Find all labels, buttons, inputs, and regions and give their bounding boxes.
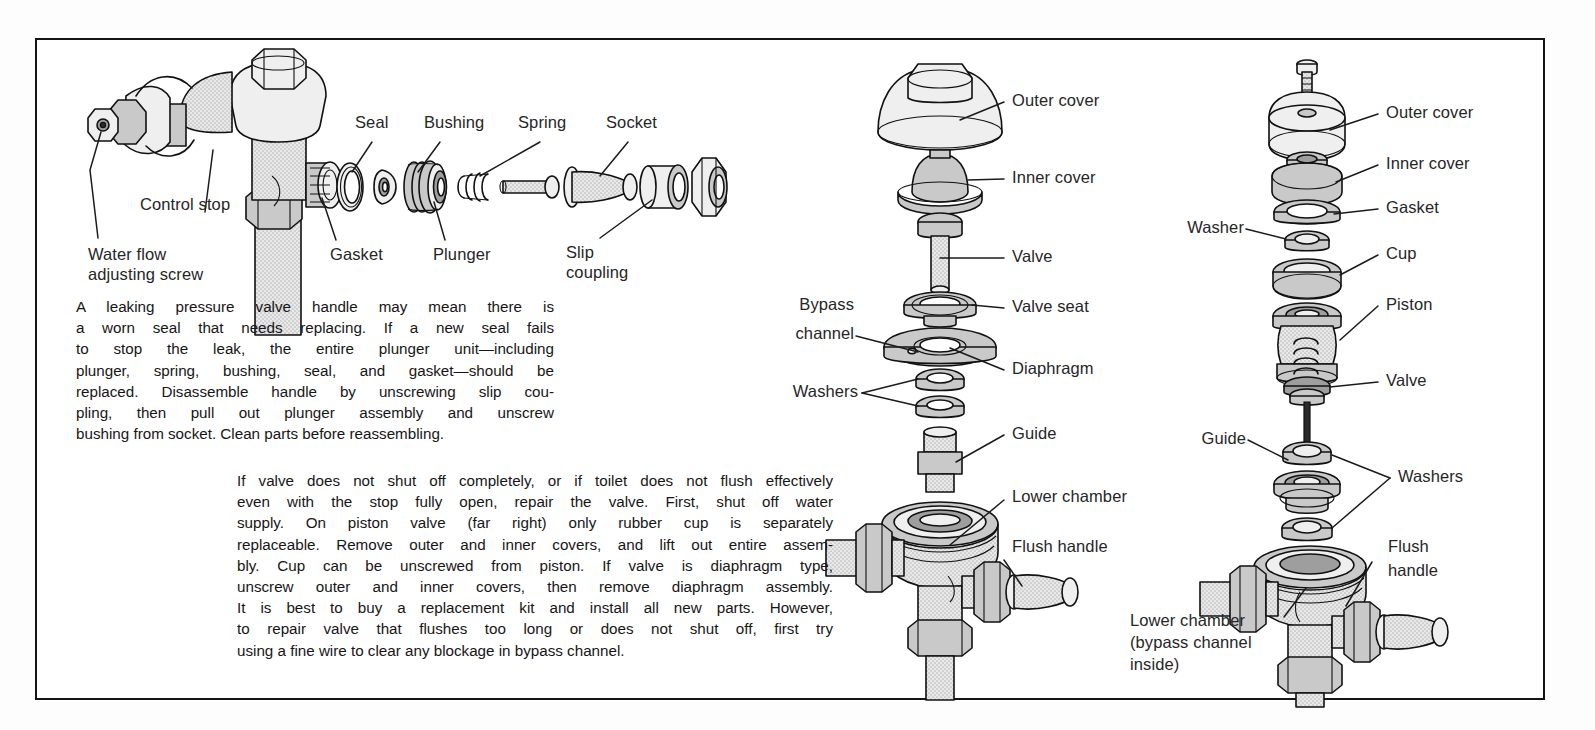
control-stop-assembly xyxy=(88,49,342,335)
label-right-cup: Cup xyxy=(1386,244,1417,264)
part-washer-lower-right xyxy=(1282,518,1332,541)
bypass-hole xyxy=(908,348,916,353)
part-inner-cover-mid xyxy=(898,150,982,214)
paragraph-line: supply. On piston valve (far right) only… xyxy=(237,512,833,533)
part-spring xyxy=(458,173,488,201)
part-stem xyxy=(500,176,559,198)
part-diaphragm-mid xyxy=(884,328,996,366)
label-mid-inner-cover: Inner cover xyxy=(1012,168,1096,188)
part-seal xyxy=(337,163,363,211)
label-right-lower-chamber-line3: inside) xyxy=(1130,655,1179,675)
part-washer-right xyxy=(1285,231,1329,251)
paragraph-line: using a fine wire to clear any blockage … xyxy=(237,640,833,661)
part-end-nut xyxy=(692,158,727,216)
part-lower-chamber-mid xyxy=(826,502,1078,700)
paragraph-line: plunger, spring, bushing, seal, and gask… xyxy=(76,360,554,381)
part-outer-cover-mid xyxy=(878,64,1002,150)
part-valve-right xyxy=(1284,377,1330,444)
paragraph-line: to stop the leak, the entire plunger uni… xyxy=(76,338,554,359)
part-valve-seat-mid xyxy=(904,292,976,327)
label-right-gasket: Gasket xyxy=(1386,198,1439,218)
label-water-flow-screw-line1: Water flow xyxy=(88,245,166,265)
part-valve-mid xyxy=(918,213,962,294)
valve-repair-paragraph: If valve does not shut off completely, o… xyxy=(237,470,833,661)
part-bushing xyxy=(374,170,396,204)
label-right-lower-chamber-line2: (bypass channel xyxy=(1130,633,1252,653)
part-cup-right xyxy=(1273,259,1341,299)
paragraph-line: A leaking pressure valve handle may mean… xyxy=(76,296,554,317)
label-mid-bypass-line2: channel xyxy=(700,324,854,344)
diaphragm-valve-exploded xyxy=(826,64,1078,700)
label-mid-flush-handle: Flush handle xyxy=(1012,537,1108,557)
part-washer-upper-right xyxy=(1283,442,1331,465)
label-socket: Socket xyxy=(606,113,657,133)
label-right-lower-chamber-line1: Lower chamber xyxy=(1130,611,1245,631)
label-mid-valve: Valve xyxy=(1012,247,1053,267)
label-slip-coupling-line2: coupling xyxy=(566,263,628,283)
part-piston-right xyxy=(1273,303,1341,386)
paragraph-line: bushing from socket. Clean parts before … xyxy=(76,423,554,444)
paragraph-line: It is best to buy a replacement kit and … xyxy=(237,597,833,618)
label-slip-coupling-line1: Slip xyxy=(566,243,594,263)
label-right-inner-cover: Inner cover xyxy=(1386,154,1470,174)
part-guide-mid xyxy=(918,427,962,492)
label-right-washer: Washer xyxy=(1130,218,1244,238)
plunger-parts-row xyxy=(337,158,727,216)
part-inner-cover-right xyxy=(1272,152,1342,205)
part-gasket-right xyxy=(1274,200,1340,224)
paragraph-line: unscrew outer and inner covers, then rem… xyxy=(237,576,833,597)
label-seal: Seal xyxy=(355,113,388,133)
label-right-piston: Piston xyxy=(1386,295,1432,315)
label-spring: Spring xyxy=(518,113,566,133)
label-right-valve: Valve xyxy=(1386,371,1427,391)
part-slip-coupling xyxy=(640,165,688,209)
label-right-flush-handle-line1: Flush xyxy=(1388,537,1429,557)
label-right-flush-handle-line2: handle xyxy=(1388,561,1438,581)
label-bushing: Bushing xyxy=(424,113,484,133)
paragraph-line: a worn seal that needs replacing. If a n… xyxy=(76,317,554,338)
label-right-guide: Guide xyxy=(1136,429,1246,449)
handle-repair-paragraph: A leaking pressure valve handle may mean… xyxy=(76,296,554,444)
part-plunger xyxy=(404,161,447,213)
paragraph-line: even with the stop fully open, repair th… xyxy=(237,491,833,512)
paragraph-line: pling, then pull out plunger assembly an… xyxy=(76,402,554,423)
paragraph-line: to repair valve that flushes too long or… xyxy=(237,618,833,639)
part-socket xyxy=(564,167,637,207)
label-plunger: Plunger xyxy=(433,245,491,265)
label-right-washers: Washers xyxy=(1398,467,1463,487)
label-mid-outer-cover: Outer cover xyxy=(1012,91,1099,111)
part-washers-mid xyxy=(916,369,964,418)
label-mid-lower-chamber: Lower chamber xyxy=(1012,487,1127,507)
paragraph-line: replaceable. Remove outer and inner cove… xyxy=(237,534,833,555)
label-right-outer-cover: Outer cover xyxy=(1386,103,1473,123)
label-mid-bypass-line1: Bypass xyxy=(700,295,854,315)
paragraph-line: replaced. Disassemble handle by unscrewi… xyxy=(76,381,554,402)
label-control-stop: Control stop xyxy=(140,195,230,215)
label-mid-guide: Guide xyxy=(1012,424,1057,444)
part-outer-cover-right xyxy=(1269,92,1345,160)
label-gasket: Gasket xyxy=(330,245,383,265)
label-water-flow-screw-line2: adjusting screw xyxy=(88,265,203,285)
label-mid-valve-seat: Valve seat xyxy=(1012,297,1089,317)
paragraph-line: bly. Cup can be unscrewed from piston. I… xyxy=(237,555,833,576)
label-mid-washers: Washers xyxy=(700,382,858,402)
figure-page: Water flow adjusting screw Control stop … xyxy=(0,0,1595,730)
label-mid-diaphragm: Diaphragm xyxy=(1012,359,1094,379)
paragraph-line: If valve does not shut off completely, o… xyxy=(237,470,833,491)
part-guide-right xyxy=(1274,471,1340,513)
